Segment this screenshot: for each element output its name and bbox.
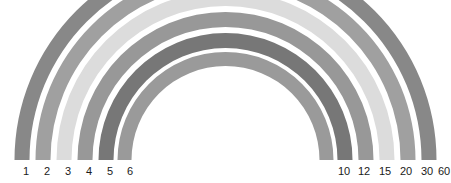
right-axis-label-15: 15 bbox=[379, 166, 391, 177]
right-axis-label-30: 30 bbox=[421, 166, 433, 177]
left-axis-label-6: 6 bbox=[127, 166, 133, 177]
concentric-arc-bands-svg bbox=[0, 0, 451, 183]
left-axis-label-1: 1 bbox=[23, 166, 29, 177]
right-axis-label-20: 20 bbox=[400, 166, 412, 177]
right-axis-label-60: 60 bbox=[438, 166, 450, 177]
left-axis-label-4: 4 bbox=[86, 166, 92, 177]
left-axis-label-2: 2 bbox=[44, 166, 50, 177]
arc-diagram-figure: 123456 101215203060 bbox=[0, 0, 451, 183]
right-axis-label-12: 12 bbox=[358, 166, 370, 177]
right-axis-label-10: 10 bbox=[338, 166, 350, 177]
left-axis-label-3: 3 bbox=[65, 166, 71, 177]
arc-band-group bbox=[15, 0, 437, 160]
left-axis-label-5: 5 bbox=[107, 166, 113, 177]
